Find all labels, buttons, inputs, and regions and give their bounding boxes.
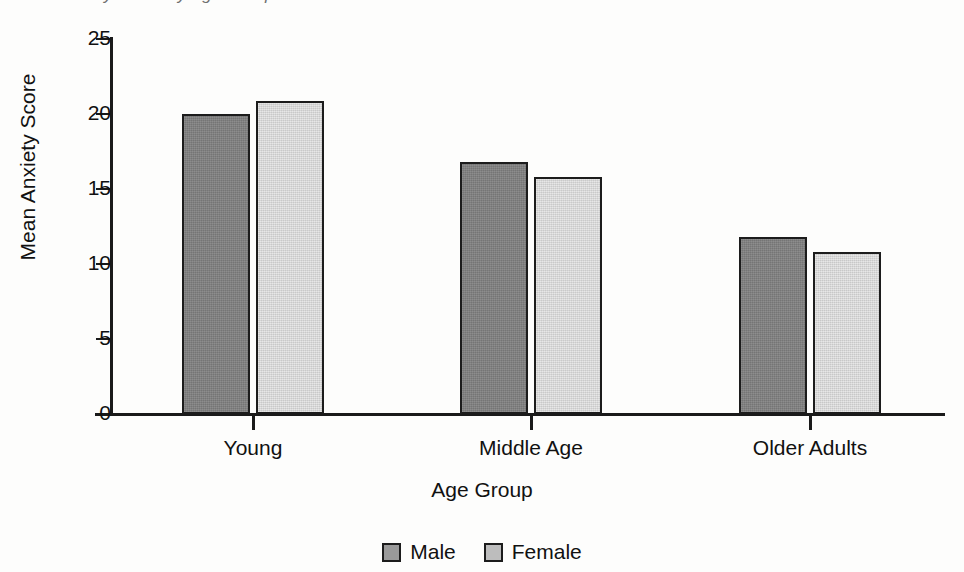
y-axis-line: [110, 37, 113, 416]
x-axis-tick: [252, 416, 255, 430]
x-axis-tick: [809, 416, 812, 430]
x-axis-tick-label: Older Adults: [680, 436, 940, 460]
x-axis-title: Age Group: [0, 478, 964, 502]
legend-item-label: Male: [410, 540, 456, 564]
bar-middle-age-male: [460, 162, 528, 414]
legend-swatch-icon: [484, 543, 503, 562]
legend-item-female: Female: [484, 540, 582, 564]
chart-title: Mean Anxiety Score by Age Group: [8, 0, 275, 5]
bar-middle-age-female: [534, 177, 602, 414]
bar-young-male: [182, 114, 250, 414]
x-axis-tick-label: Middle Age: [401, 436, 661, 460]
y-axis-title: Mean Anxiety Score: [16, 7, 40, 327]
legend-item-label: Female: [512, 540, 582, 564]
legend-swatch-icon: [382, 543, 401, 562]
bar-chart-figure: Mean Anxiety Score by Age Group 05101520…: [0, 0, 964, 572]
bar-young-female: [256, 101, 324, 415]
bar-older-adults-female: [813, 252, 881, 414]
y-axis-tick-label: 0: [25, 401, 111, 425]
legend-item-male: Male: [382, 540, 456, 564]
bar-older-adults-male: [739, 237, 807, 414]
chart-legend: MaleFemale: [0, 540, 964, 564]
y-axis-tick-label: 5: [25, 326, 111, 350]
x-axis-tick: [530, 416, 533, 430]
x-axis-tick-label: Young: [123, 436, 383, 460]
